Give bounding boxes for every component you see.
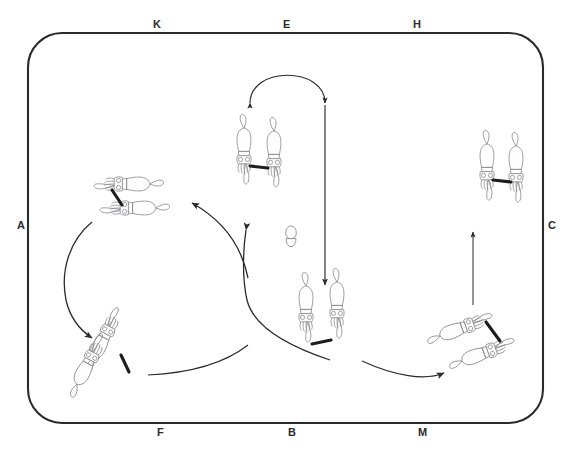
arm-link xyxy=(486,322,500,341)
bottom-left-to-right-curve xyxy=(148,345,248,375)
squid-group-top-right-pair xyxy=(480,130,523,201)
edge-label-c: C xyxy=(548,219,556,231)
edge-label-e: E xyxy=(283,18,291,30)
squid-group-bottom-right-pair xyxy=(425,310,517,372)
diagram-canvas xyxy=(0,0,571,458)
bottom-to-bottom-right-arrow xyxy=(362,361,444,377)
arm-link xyxy=(493,180,511,182)
arc-top-bidirectional-arrow xyxy=(250,75,325,103)
squid-group-top-center-pair xyxy=(237,114,281,186)
edge-label-a: A xyxy=(17,219,25,231)
arm-link xyxy=(121,355,129,372)
arm-link xyxy=(112,190,122,205)
arm-link xyxy=(250,166,268,168)
edge-label-f: F xyxy=(157,426,164,438)
arm-link xyxy=(312,340,331,344)
edge-label-m: M xyxy=(418,426,427,438)
figure-root: K E H A C F B M xyxy=(0,0,571,458)
squid-group-bottom-center-pair xyxy=(299,268,344,344)
edge-label-k: K xyxy=(153,18,161,30)
left-down-arc-arrow xyxy=(64,222,92,338)
arrow-layer xyxy=(64,75,473,377)
right-up-to-center-pair-arrow xyxy=(244,230,331,360)
squid-group-upper-left-pair xyxy=(94,177,169,215)
edge-label-b: B xyxy=(288,426,296,438)
into-upper-left-pair-arrow xyxy=(192,203,248,278)
edge-label-h: H xyxy=(413,18,421,30)
egg-capsule-icon xyxy=(286,226,297,247)
